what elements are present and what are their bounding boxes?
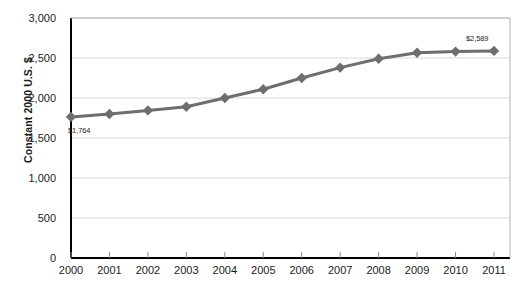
x-tick-label: 2011 bbox=[482, 264, 506, 276]
x-tick-label: 2000 bbox=[59, 264, 83, 276]
x-tick-label: 2010 bbox=[443, 264, 467, 276]
data-point-marker bbox=[489, 46, 499, 56]
line-chart: Constant 2000 U.S. $ 05001,0001,5002,000… bbox=[0, 0, 523, 294]
data-point-marker bbox=[335, 62, 345, 72]
data-point-marker bbox=[412, 48, 422, 58]
data-point-marker bbox=[143, 105, 153, 115]
first-point-label: $1,764 bbox=[68, 126, 90, 135]
data-point-marker bbox=[450, 46, 460, 56]
data-point-marker bbox=[181, 102, 191, 112]
data-point-marker bbox=[220, 93, 230, 103]
y-tick-label: 500 bbox=[38, 212, 56, 224]
x-tick-label: 2003 bbox=[174, 264, 198, 276]
y-tick-label: 2,500 bbox=[28, 52, 56, 64]
y-tick-label: 3,000 bbox=[28, 12, 56, 24]
y-tick-label: 1,500 bbox=[28, 132, 56, 144]
data-point-marker bbox=[373, 54, 383, 64]
gridlines bbox=[71, 18, 510, 218]
x-tick-label: 2009 bbox=[405, 264, 429, 276]
x-tick-label: 2002 bbox=[136, 264, 160, 276]
x-tick-label: 2005 bbox=[251, 264, 275, 276]
data-point-marker bbox=[104, 109, 114, 119]
x-tick-label: 2008 bbox=[366, 264, 390, 276]
series-polyline bbox=[71, 51, 494, 117]
y-tick-label: 1,000 bbox=[28, 172, 56, 184]
y-axis-tick-labels: 05001,0001,5002,0002,5003,000 bbox=[0, 0, 56, 294]
x-tick-label: 2007 bbox=[328, 264, 352, 276]
x-tick-label: 2006 bbox=[289, 264, 313, 276]
data-point-marker bbox=[297, 73, 307, 83]
data-point-marker bbox=[258, 84, 268, 94]
x-tick-label: 2001 bbox=[97, 264, 121, 276]
data-line bbox=[71, 51, 494, 117]
plot-area bbox=[0, 0, 523, 294]
y-tick-label: 0 bbox=[50, 252, 56, 264]
data-point-marker bbox=[66, 112, 76, 122]
y-tick-label: 2,000 bbox=[28, 92, 56, 104]
last-point-label: $2,589 bbox=[466, 34, 488, 43]
x-tick-label: 2004 bbox=[213, 264, 237, 276]
